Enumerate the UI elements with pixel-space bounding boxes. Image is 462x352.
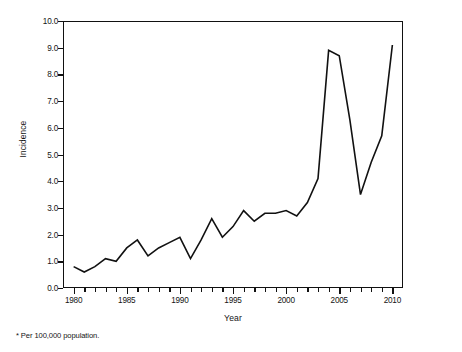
figure-footnote: * Per 100,000 population.: [16, 331, 99, 340]
x-axis-major-tick-mark: [74, 288, 75, 294]
x-axis-minor-tick-mark: [137, 288, 138, 292]
y-axis-tick-label: 8.0: [28, 70, 58, 79]
incidence-line-chart-figure: 0.01.02.03.04.05.06.07.08.09.010.0 Incid…: [0, 0, 462, 352]
x-axis-minor-tick-mark: [191, 288, 192, 292]
x-axis-major-tick-mark: [127, 288, 128, 294]
x-axis-minor-tick-mark: [307, 288, 308, 292]
y-axis-tick-label: 9.0: [28, 43, 58, 52]
x-axis-minor-tick-mark: [95, 288, 96, 292]
x-axis-tick-label: 1985: [107, 296, 147, 305]
y-axis-tick-label: 0.0: [28, 284, 58, 293]
y-axis-tick-label-group: 0.01.02.03.04.05.06.07.08.09.010.0: [28, 21, 58, 288]
x-axis-minor-tick-mark: [159, 288, 160, 292]
x-axis-minor-tick-mark: [244, 288, 245, 292]
y-axis-tick-label: 2.0: [28, 230, 58, 239]
x-axis-major-tick-mark: [339, 288, 340, 294]
x-axis-minor-tick-mark: [254, 288, 255, 292]
incidence-line-series: [74, 45, 393, 272]
x-axis-minor-tick-mark: [318, 288, 319, 292]
x-axis-minor-tick-mark: [201, 288, 202, 292]
x-axis-tick-label: 1980: [54, 296, 94, 305]
y-axis-tick-label: 5.0: [28, 150, 58, 159]
x-axis-minor-tick-mark: [329, 288, 330, 292]
y-axis-tick-label: 7.0: [28, 97, 58, 106]
x-axis-minor-tick-mark: [265, 288, 266, 292]
x-axis-tick-label: 2005: [319, 296, 359, 305]
x-axis-minor-tick-mark: [361, 288, 362, 292]
x-axis-tick-label: 2000: [266, 296, 306, 305]
x-axis-minor-tick-mark: [169, 288, 170, 292]
y-axis-tick-label: 1.0: [28, 257, 58, 266]
y-axis-tick-label: 4.0: [28, 177, 58, 186]
x-axis-tick-label: 1990: [160, 296, 200, 305]
x-axis-title: Year: [63, 313, 403, 323]
x-axis-minor-tick-mark: [148, 288, 149, 292]
x-axis-major-tick-mark: [392, 288, 393, 294]
x-axis-minor-tick-mark: [84, 288, 85, 292]
data-series-layer: [63, 21, 403, 288]
x-axis-minor-tick-mark: [297, 288, 298, 292]
x-axis-major-tick-mark: [233, 288, 234, 294]
x-axis-minor-tick-mark: [222, 288, 223, 292]
x-axis-minor-tick-mark: [382, 288, 383, 292]
x-axis-major-tick-mark: [286, 288, 287, 294]
x-axis-tick-label: 1995: [213, 296, 253, 305]
x-axis-tick-label: 2010: [372, 296, 412, 305]
x-axis-minor-tick-mark: [212, 288, 213, 292]
x-axis-minor-tick-mark: [116, 288, 117, 292]
x-axis-minor-tick-mark: [106, 288, 107, 292]
x-axis-minor-tick-mark: [371, 288, 372, 292]
y-axis-tick-mark: [58, 288, 63, 289]
x-axis-minor-tick-mark: [276, 288, 277, 292]
y-axis-tick-label: 3.0: [28, 203, 58, 212]
x-axis-minor-tick-mark: [350, 288, 351, 292]
y-axis-title: Incidence: [18, 94, 28, 184]
y-axis-tick-label: 6.0: [28, 123, 58, 132]
x-axis-major-tick-mark: [180, 288, 181, 294]
y-axis-tick-label: 10.0: [28, 17, 58, 26]
